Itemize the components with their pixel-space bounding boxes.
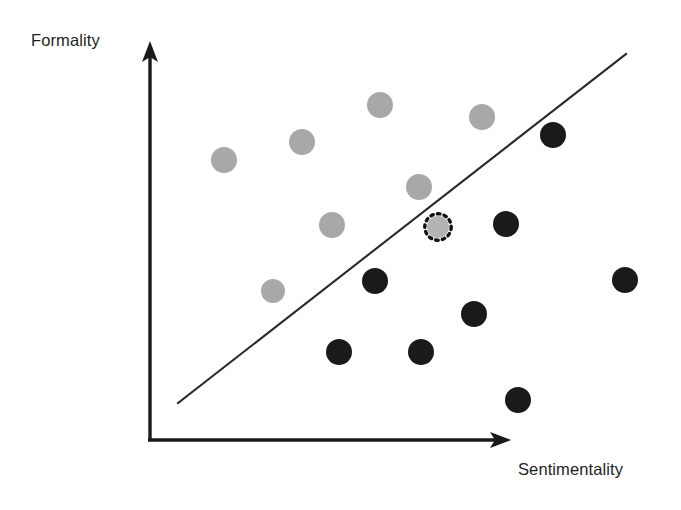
data-point (261, 279, 285, 303)
data-point (427, 216, 449, 238)
data-point (493, 211, 519, 237)
data-point (289, 129, 315, 155)
x-axis (148, 432, 511, 448)
plot-canvas (0, 0, 681, 510)
data-points-class-gray (211, 92, 495, 303)
data-point (326, 339, 352, 365)
scatter-plot-figure: Formality Sentimentality (0, 0, 681, 510)
data-point-query (425, 214, 451, 240)
data-point (469, 104, 495, 130)
data-point (408, 339, 434, 365)
decision-boundary-line (178, 54, 626, 403)
data-point (540, 122, 566, 148)
data-point (461, 301, 487, 327)
data-point (612, 267, 638, 293)
data-point (406, 174, 432, 200)
data-point (362, 268, 388, 294)
data-point (367, 92, 393, 118)
data-point (505, 387, 531, 413)
data-point (211, 147, 237, 173)
data-point (319, 212, 345, 238)
y-axis (142, 41, 158, 440)
